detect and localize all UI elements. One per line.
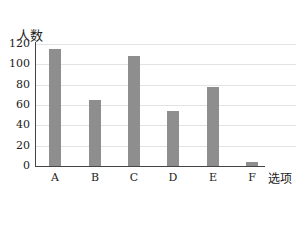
y-tick-label: 20 [4, 139, 30, 152]
bar-F [246, 162, 258, 166]
gridline [36, 64, 296, 65]
gridline [36, 125, 296, 126]
gridline [36, 105, 296, 106]
y-tick-label: 120 [4, 37, 30, 50]
x-axis-line [35, 166, 265, 167]
x-tick-label: C [124, 171, 144, 184]
bar-C [128, 56, 140, 166]
x-tick-label: A [45, 171, 65, 184]
x-tick-label: B [85, 171, 105, 184]
y-tick-label: 60 [4, 98, 30, 111]
x-tick-label: F [242, 171, 262, 184]
bar-E [207, 87, 219, 166]
gridline [36, 85, 296, 86]
y-tick-label: 40 [4, 118, 30, 131]
y-axis-line [35, 42, 36, 167]
bar-A [49, 49, 61, 166]
bar-B [89, 100, 101, 166]
x-axis-label: 选项 [268, 169, 292, 186]
gridline [36, 44, 296, 45]
y-tick-label: 80 [4, 78, 30, 91]
gridline [36, 146, 296, 147]
y-tick-label: 100 [4, 57, 30, 70]
y-tick-label: 0 [4, 159, 30, 172]
x-tick-label: D [163, 171, 183, 184]
bar-D [167, 111, 179, 166]
x-tick-label: E [203, 171, 223, 184]
